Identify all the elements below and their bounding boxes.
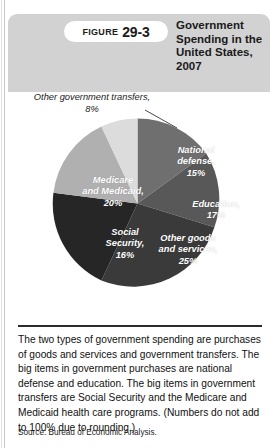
pie-label-national-defense: National defense, 15% [165,145,227,179]
pie-chart: National defense, 15% Education, 17% Oth… [49,115,226,292]
figure-caption: The two types of government spending are… [18,333,264,435]
pie-label-other-government-transfers: Other government transfers, 8% [22,92,162,115]
figure-number: 29-3 [122,24,149,40]
chart-area: Other government transfers, 8% National … [8,92,270,314]
figure-header: FIGURE 29-3 Government Spending in the U… [8,14,270,92]
page-edge-shadow-outer [1,0,2,448]
page-edge-shadow-inner [4,0,5,448]
pie-label-medicare-and-medicaid: Medicare and Medicaid, 20% [71,175,155,209]
pie-label-social-security: Social Security, 16% [95,227,155,261]
figure-number-pill: FIGURE 29-3 [64,21,168,42]
figure-label-word: FIGURE [82,27,118,37]
pie-label-education: Education, 17% [181,199,251,222]
pie-label-other-goods-and-services: Other goods and services, 25% [147,233,229,267]
figure-card: FIGURE 29-3 Government Spending in the U… [0,0,274,448]
figure-title: Government Spending in the United States… [176,19,272,73]
figure-source: Source: Bureau of Economic Analysis. [18,428,264,438]
caption-divider [18,325,262,327]
